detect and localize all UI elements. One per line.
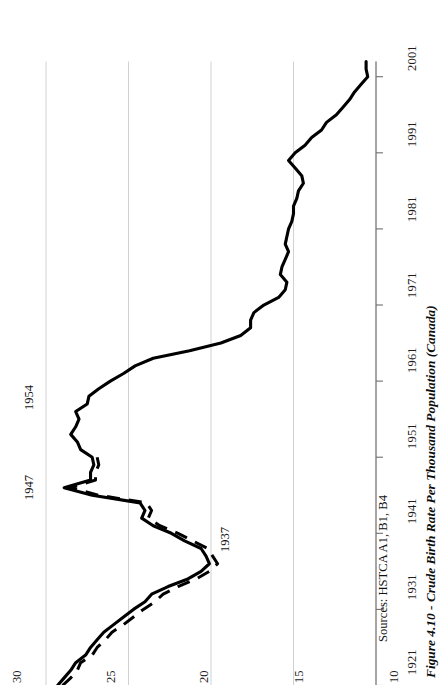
gridlines: [46, 61, 376, 685]
series-line-dashed: [63, 457, 218, 685]
figure-caption: Figure 4.10 - Crude Birth Rate Per Thous…: [423, 305, 439, 678]
y-tick-label-30: 30: [10, 671, 25, 684]
x-tick-label-1971: 1971: [405, 272, 420, 298]
y-tick-label-15: 15: [292, 671, 307, 684]
x-tick-label-1961: 1961: [405, 347, 420, 373]
x-tick-label-1921: 1921: [405, 649, 420, 675]
x-tick-label-1941: 1941: [405, 498, 420, 524]
sources-note: Sources: HSTCA A1, B1, B4: [376, 495, 391, 642]
line-chart: [46, 61, 376, 685]
plot-area: [46, 61, 376, 685]
annotation-1947: 1947: [22, 475, 37, 500]
x-tick-label-2001: 2001: [405, 45, 420, 71]
y-tick-label-10: 10: [387, 671, 402, 684]
x-tick-label-1981: 1981: [405, 196, 420, 222]
x-tick-label-1991: 1991: [405, 121, 420, 147]
y-tick-label-20: 20: [197, 671, 212, 684]
annotation-1937: 1937: [218, 527, 233, 552]
annotation-1954: 1954: [22, 385, 37, 410]
y-tick-label-25: 25: [104, 671, 119, 684]
series-line-solid: [58, 61, 368, 685]
x-tick-label-1931: 1931: [405, 574, 420, 600]
x-tick-label-1951: 1951: [405, 423, 420, 449]
